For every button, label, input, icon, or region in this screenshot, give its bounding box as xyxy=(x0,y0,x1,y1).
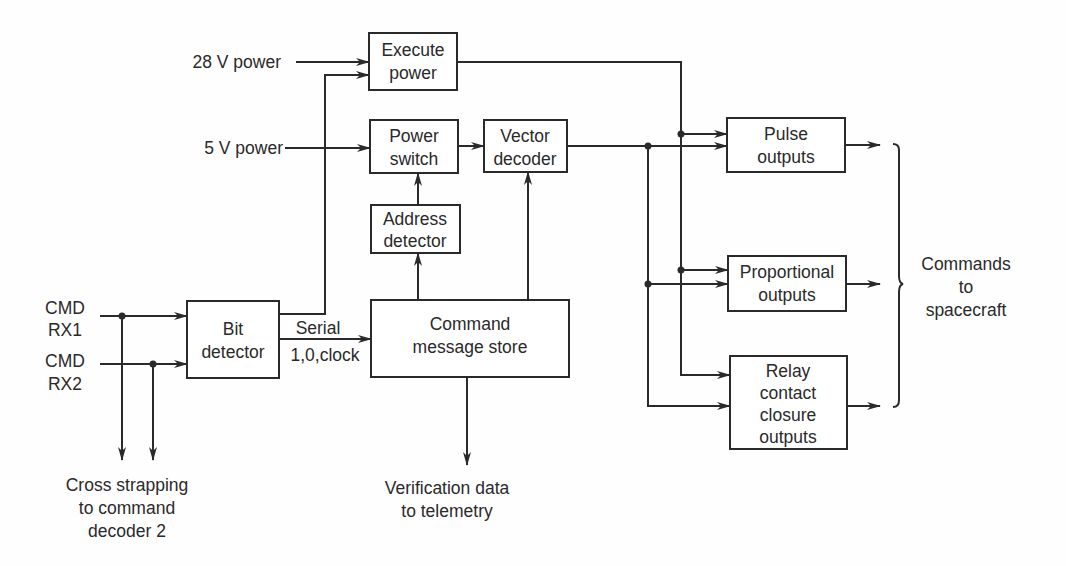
diagram-svg: Execute power Power switch Vector decode… xyxy=(0,0,1066,566)
input-label-cmd-rx2: RX2 xyxy=(48,374,82,394)
junction-dot xyxy=(678,267,685,274)
block-label: Vector xyxy=(500,126,550,146)
output-label-commands: to xyxy=(959,277,974,297)
junction-dot xyxy=(119,313,126,320)
block-label: detector xyxy=(201,342,264,362)
input-label-cmd-rx1: RX1 xyxy=(48,320,82,340)
command-decoder-block-diagram: Execute power Power switch Vector decode… xyxy=(0,0,1066,566)
input-label-cmd-rx2: CMD xyxy=(45,351,85,371)
block-proportional-outputs: Proportional outputs xyxy=(728,256,846,311)
signal-label-serial: Serial xyxy=(296,318,341,338)
block-label: Address xyxy=(383,209,447,229)
input-label-5v-power: 5 V power xyxy=(204,138,283,158)
block-label: message store xyxy=(413,337,528,357)
block-vector-decoder: Vector decoder xyxy=(484,120,567,172)
block-label: contact xyxy=(760,383,817,403)
block-label: Proportional xyxy=(740,262,834,282)
block-label: detector xyxy=(383,231,446,251)
block-execute-power: Execute power xyxy=(369,33,457,90)
block-label: outputs xyxy=(758,285,816,305)
output-label-cross-strapping: Cross strapping xyxy=(66,475,189,495)
block-pulse-outputs: Pulse outputs xyxy=(727,118,845,172)
block-bit-detector: Bit detector xyxy=(187,301,279,378)
block-label: decoder xyxy=(493,149,556,169)
output-label-cross-strapping: decoder 2 xyxy=(88,521,166,541)
wire-vector-trunk xyxy=(567,146,730,406)
block-power-switch: Power switch xyxy=(370,120,458,173)
block-label: Execute xyxy=(381,40,444,60)
block-label: Pulse xyxy=(764,124,808,144)
output-label-commands: Commands xyxy=(921,254,1011,274)
block-label: power xyxy=(389,63,437,83)
output-label-cross-strapping: to command xyxy=(79,498,175,518)
junction-dot xyxy=(645,143,652,150)
block-label: outputs xyxy=(759,427,817,447)
block-label: closure xyxy=(760,405,816,425)
block-command-message-store: Command message store xyxy=(371,300,569,377)
block-label: outputs xyxy=(757,147,815,167)
block-label: Bit xyxy=(223,319,244,339)
output-label-commands: spacecraft xyxy=(926,300,1007,320)
signal-label-clock: 1,0,clock xyxy=(290,345,359,365)
junction-dot xyxy=(645,281,652,288)
block-label: Relay xyxy=(766,361,811,381)
block-relay-outputs: Relay contact closure outputs xyxy=(730,356,847,449)
input-label-cmd-rx1: CMD xyxy=(45,298,85,318)
junction-dot xyxy=(150,361,157,368)
junction-dot xyxy=(678,131,685,138)
input-label-28v-power: 28 V power xyxy=(192,52,281,72)
commands-brace xyxy=(893,144,903,407)
wire-bit-detector-to-execute xyxy=(279,75,369,314)
block-label: Command xyxy=(430,314,511,334)
output-label-verification: to telemetry xyxy=(401,501,493,521)
output-label-verification: Verification data xyxy=(385,478,510,498)
block-address-detector: Address detector xyxy=(371,205,460,253)
block-label: switch xyxy=(390,149,439,169)
block-label: Power xyxy=(389,126,439,146)
